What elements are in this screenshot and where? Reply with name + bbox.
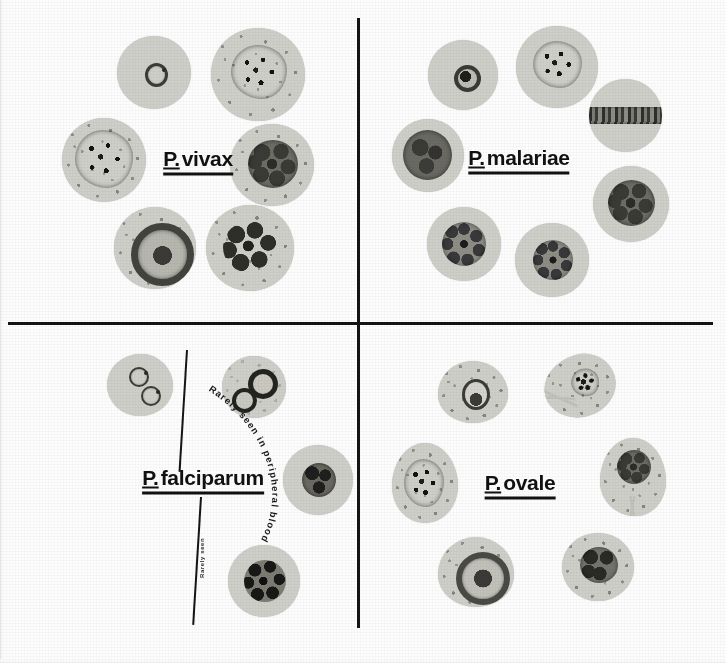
parasite-ring-form xyxy=(462,379,490,410)
parasite-developing-schizont xyxy=(608,180,655,226)
cell-mature-trophozoite xyxy=(392,119,464,192)
cell-late-amoeboid-trophozoite xyxy=(62,118,146,202)
cell-gametocyte xyxy=(562,533,634,601)
parasite-late-amoeboid-trophozoite xyxy=(75,130,133,188)
malaria-species-plate: P.vivax xyxy=(0,0,726,663)
cell-fimbriated-trophozoite xyxy=(537,346,623,425)
parasite-amoeboid-trophozoite xyxy=(231,45,287,99)
species-epithet: ovale xyxy=(502,471,555,494)
cell-mature-schizont xyxy=(438,537,514,607)
parasite-band-form xyxy=(589,107,662,124)
parasite-merozoite-cluster xyxy=(223,221,278,273)
parasite-ring-form-upper xyxy=(129,367,149,387)
label-underline xyxy=(485,497,556,500)
parasite-growing-trophozoite xyxy=(533,41,582,88)
parasite-schizont xyxy=(617,450,651,484)
species-epithet: vivax xyxy=(181,147,233,170)
species-epithet: malariae xyxy=(486,146,570,169)
cell-rosette-schizont xyxy=(427,207,501,281)
parasite-gametocyte xyxy=(533,240,573,280)
cell-amoeboid-trophozoite-oval xyxy=(392,443,458,523)
cell-macrogametocyte xyxy=(114,207,196,289)
genus-abbrev: P. xyxy=(485,471,503,494)
genus-abbrev: P. xyxy=(142,466,160,489)
annotation-rarely-seen-in-peripheral-blood: Rarely seen in peripheral blood xyxy=(196,382,316,582)
genus-abbrev: P. xyxy=(163,147,181,170)
cell-immature-schizont xyxy=(230,124,314,206)
species-label-malariae[interactable]: P.malariae xyxy=(468,146,569,175)
label-underline xyxy=(163,173,233,176)
parasite-immature-schizont xyxy=(248,140,298,188)
cell-double-ring-form-trophozoite xyxy=(107,354,173,416)
parasite-mature-schizont xyxy=(456,552,510,605)
cell-band-form-trophozoite xyxy=(589,79,662,152)
parasite-macrogametocyte xyxy=(131,223,194,286)
annotation-rarely-seen-small: Rarely seen xyxy=(199,538,205,578)
parasite-ring-form xyxy=(145,63,168,87)
label-underline xyxy=(468,172,569,175)
cell-amoeboid-trophozoite xyxy=(211,28,305,121)
species-label-ovale[interactable]: P.ovale xyxy=(485,471,556,500)
cell-fimbriated-schizont xyxy=(600,438,666,516)
cell-developing-schizont xyxy=(593,166,669,242)
quadrant-ovale[interactable]: P.ovale xyxy=(360,325,726,663)
genus-abbrev: P. xyxy=(468,146,486,169)
cell-ring-form-trophozoite xyxy=(438,361,508,423)
cell-gametocyte xyxy=(515,223,589,297)
cell-growing-trophozoite xyxy=(516,26,598,108)
parasite-mature-trophozoite xyxy=(403,130,452,180)
fimbriae-fringe xyxy=(604,496,660,516)
species-label-vivax[interactable]: P.vivax xyxy=(163,147,233,176)
cell-mature-schizont-merozoites xyxy=(206,205,294,291)
cell-ring-form-trophozoite xyxy=(117,36,191,109)
parasite-gametocyte xyxy=(580,547,618,583)
parasite-rosette-schizont xyxy=(442,222,486,266)
parasite-ring-form-lower xyxy=(141,386,161,406)
parasite-amoeboid-trophozoite xyxy=(404,459,444,507)
annotation-text: Rarely seen in peripheral blood xyxy=(207,383,281,545)
quadrant-vivax[interactable]: P.vivax xyxy=(0,0,357,322)
quadrant-malariae[interactable]: P.malariae xyxy=(360,0,726,322)
parasite-ring-form xyxy=(454,65,481,92)
cell-ring-form-trophozoite xyxy=(428,40,498,110)
